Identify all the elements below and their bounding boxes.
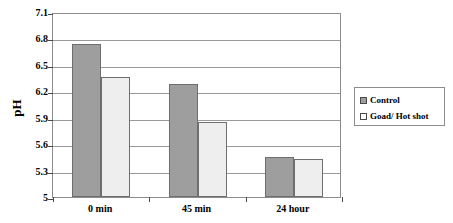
x-axis-tick: [342, 197, 343, 202]
y-axis-tick-label: 5: [20, 193, 48, 203]
x-axis-tick: [246, 197, 247, 202]
y-axis-tick-label: 6.8: [20, 34, 48, 44]
bar-chart: pH 55.35.65.96.26.56.87.1 0 min45 min24 …: [0, 0, 453, 223]
bar-goad-hot-shot-45-min: [198, 122, 227, 197]
legend-item-goad-hot-shot: Goad/ Hot shot: [360, 108, 441, 124]
y-axis-tick: [48, 173, 53, 174]
bar-goad-hot-shot-24-hour: [294, 159, 323, 197]
y-axis-tick: [48, 14, 53, 15]
legend-label: Goad/ Hot shot: [370, 112, 429, 121]
y-axis-tick: [48, 120, 53, 121]
x-axis-tick: [149, 197, 150, 202]
bar-control-45-min: [169, 84, 198, 197]
plot-area: [52, 13, 341, 198]
x-axis-category-label: 0 min: [60, 203, 140, 214]
chart-legend: Control Goad/ Hot shot: [354, 87, 445, 126]
y-axis-tick: [48, 40, 53, 41]
legend-swatch-icon: [360, 113, 367, 120]
bar-control-0-min: [72, 44, 101, 197]
legend-item-control: Control: [360, 92, 441, 108]
y-axis-tick-label: 6.5: [20, 61, 48, 71]
bar-control-24-hour: [265, 157, 294, 197]
y-axis-tick: [48, 67, 53, 68]
y-axis-tick-label: 5.6: [20, 140, 48, 150]
y-axis-tick-label: 7.1: [20, 8, 48, 18]
bar-goad-hot-shot-0-min: [101, 77, 130, 197]
legend-label: Control: [370, 96, 400, 105]
y-axis-tick-label: 6.2: [20, 87, 48, 97]
x-axis-category-label: 24 hour: [253, 203, 333, 214]
x-axis-tick: [53, 197, 54, 202]
gridline: [53, 40, 340, 41]
y-axis-tick-labels: 55.35.65.96.26.56.87.1: [20, 0, 48, 223]
y-axis-tick: [48, 93, 53, 94]
legend-swatch-icon: [360, 97, 367, 104]
y-axis-tick: [48, 146, 53, 147]
x-axis-category-label: 45 min: [157, 203, 237, 214]
y-axis-tick-label: 5.3: [20, 167, 48, 177]
y-axis-tick-label: 5.9: [20, 114, 48, 124]
